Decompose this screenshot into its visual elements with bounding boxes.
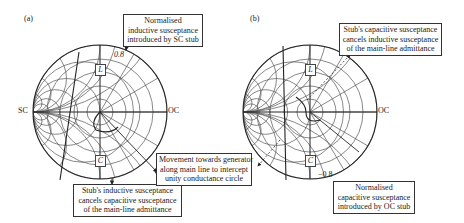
panel-a-label: (a)	[24, 14, 33, 23]
callout-movement-towards-generator: Movement towards generator along main li…	[156, 153, 252, 186]
callout-line: introduced by SC stub	[126, 35, 200, 45]
susceptance-value-b: −0.8	[318, 170, 333, 179]
callout-stub-capacitive-cancels: Stub's capacitive susceptance cancels in…	[339, 23, 442, 56]
callout-line: introduced by OC stub	[336, 202, 412, 212]
callout-line: Normalised	[336, 183, 412, 193]
oc-label-a: OC	[168, 106, 179, 115]
callout-line: cancels inductive susceptance	[342, 35, 439, 45]
oc-label-b: OC	[378, 106, 389, 115]
callout-line: of the main-line admittance	[342, 44, 439, 54]
callout-line: Stub's inductive susceptance	[76, 186, 179, 196]
callout-line: capacitive susceptance	[336, 193, 412, 203]
marker-c-b: C	[305, 155, 316, 167]
callout-line: of the main-line admittance	[76, 205, 179, 215]
callout-line: cancels capacitive susceptance	[76, 196, 179, 206]
susceptance-value-a: 0.8	[114, 50, 124, 59]
callout-line: Stub's capacitive susceptance	[342, 25, 439, 35]
marker-l-b: L	[305, 64, 316, 76]
callout-capacitive-oc-stub: Normalised capacitive susceptance introd…	[333, 181, 415, 214]
callout-line: unity conductance circle	[159, 174, 249, 184]
callout-line: along main line to intercept	[159, 165, 249, 175]
sc-label: SC	[18, 106, 28, 115]
panel-b-label: (b)	[250, 14, 259, 23]
callout-line: Movement towards generator	[159, 155, 249, 165]
callout-stub-inductive-cancels: Stub's inductive susceptance cancels cap…	[73, 184, 182, 217]
callout-inductive-sc-stub: Normalised inductive susceptance introdu…	[123, 14, 203, 47]
marker-c-a: C	[95, 155, 106, 167]
callout-line: Normalised	[126, 16, 200, 26]
callout-line: inductive susceptance	[126, 26, 200, 36]
marker-l-a: L	[95, 64, 106, 76]
